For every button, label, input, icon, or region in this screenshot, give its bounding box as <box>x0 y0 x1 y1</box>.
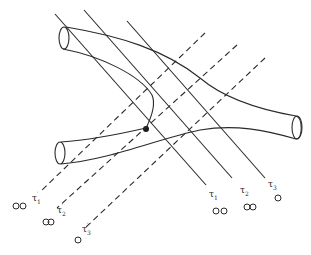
svg-text:1: 1 <box>37 198 41 205</box>
svg-text:3: 3 <box>87 229 91 236</box>
loops-tau3 <box>275 195 281 201</box>
svg-text:2: 2 <box>245 190 249 197</box>
lower-tube <box>55 116 302 164</box>
label-tau1-prime: τ 1 ′ <box>32 190 41 205</box>
label-tau2-prime: τ 2 ′ <box>57 202 66 217</box>
label-tau2: τ 2 <box>240 185 249 197</box>
loops-tau1-prime <box>13 203 26 209</box>
diagram-canvas: τ 1 ′ τ 2 ′ τ 3 ′ τ 1 τ 2 τ 3 <box>0 0 311 255</box>
svg-text:′: ′ <box>37 190 39 197</box>
svg-text:2: 2 <box>62 210 66 217</box>
svg-text:3: 3 <box>273 184 277 191</box>
label-tau1: τ 1 <box>209 189 218 201</box>
solid-slice-lines <box>55 10 265 185</box>
loops-tau3-prime <box>75 237 81 243</box>
loops-tau1 <box>213 208 227 214</box>
loops-tau2 <box>244 204 256 210</box>
loops-tau2-prime <box>43 219 54 225</box>
upper-tube <box>59 27 296 128</box>
label-tau3: τ 3 <box>268 179 277 191</box>
dashed-slice-lines <box>40 33 265 228</box>
svg-text:′: ′ <box>62 202 64 209</box>
svg-text:1: 1 <box>214 194 218 201</box>
